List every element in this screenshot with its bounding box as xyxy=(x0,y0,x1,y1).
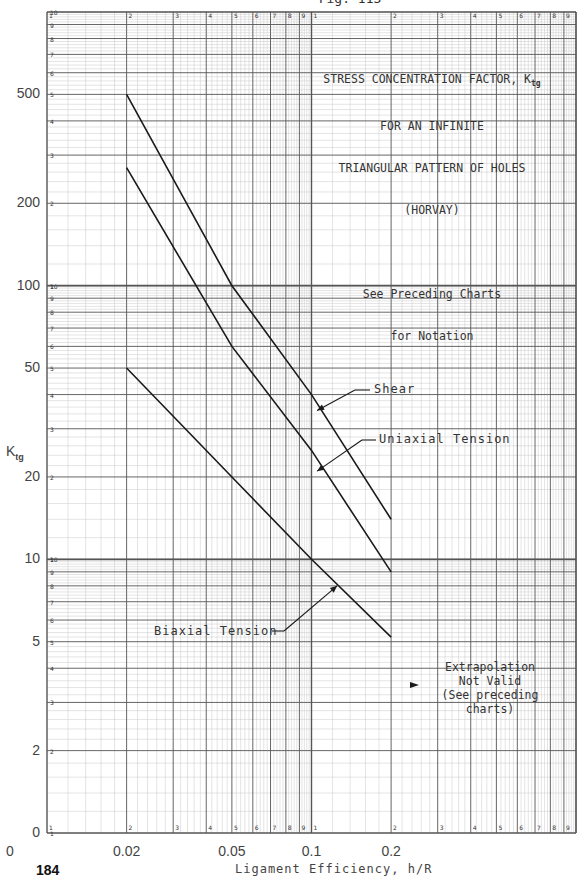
svg-text:3: 3 xyxy=(50,152,54,159)
y-axis-label: Ktg xyxy=(6,443,24,462)
svg-text:9: 9 xyxy=(301,12,305,19)
svg-text:3: 3 xyxy=(175,824,179,831)
svg-text:8: 8 xyxy=(50,36,54,43)
x-tick-label: 0.02 xyxy=(97,843,157,859)
svg-text:6: 6 xyxy=(50,70,54,77)
svg-text:8: 8 xyxy=(288,824,292,831)
svg-text:6: 6 xyxy=(519,12,523,19)
y-tick-label: 2 xyxy=(0,742,40,758)
svg-text:3: 3 xyxy=(50,426,54,433)
x-tick-label: 0.05 xyxy=(202,843,262,859)
svg-text:2: 2 xyxy=(50,474,54,481)
svg-text:4: 4 xyxy=(50,118,54,125)
label-shear: Shear xyxy=(374,382,415,396)
svg-text:1: 1 xyxy=(50,556,54,563)
svg-text:8: 8 xyxy=(552,12,556,19)
svg-text:2: 2 xyxy=(393,824,397,831)
svg-text:7: 7 xyxy=(537,824,541,831)
svg-text:9: 9 xyxy=(566,824,570,831)
svg-text:1: 1 xyxy=(314,12,318,19)
svg-text:9: 9 xyxy=(50,22,54,29)
y-tick-label: 5 xyxy=(0,633,40,649)
svg-text:8: 8 xyxy=(50,309,54,316)
svg-text:6: 6 xyxy=(255,824,259,831)
svg-text:5: 5 xyxy=(498,824,502,831)
x-tick-label: 0.2 xyxy=(361,843,421,859)
page-number: 184 xyxy=(36,862,59,878)
svg-text:5: 5 xyxy=(498,12,502,19)
y-tick-label: 50 xyxy=(0,359,40,375)
svg-text:6: 6 xyxy=(255,12,259,19)
svg-text:6: 6 xyxy=(50,343,54,350)
svg-text:3: 3 xyxy=(440,12,444,19)
svg-text:1: 1 xyxy=(314,824,318,831)
svg-text:2: 2 xyxy=(50,200,54,207)
svg-text:9: 9 xyxy=(566,12,570,19)
svg-text:9: 9 xyxy=(50,295,54,302)
x-axis-label: Ligament Efficiency, h/R xyxy=(235,862,432,876)
svg-text:5: 5 xyxy=(50,365,54,372)
y-tick-label: 0 xyxy=(0,824,40,840)
y-tick-label: 20 xyxy=(0,468,40,484)
svg-text:1: 1 xyxy=(49,824,53,831)
y-tick-label: 200 xyxy=(0,194,40,210)
series-biaxial-tension xyxy=(127,368,392,637)
y-tick-label: 10 xyxy=(0,550,40,566)
svg-text:5: 5 xyxy=(234,12,238,19)
svg-text:7: 7 xyxy=(273,824,277,831)
svg-text:7: 7 xyxy=(50,325,54,332)
svg-text:2: 2 xyxy=(129,824,133,831)
extrapolation-note: Extrapolation Not Valid (See preceding c… xyxy=(420,660,560,716)
svg-text:9: 9 xyxy=(301,824,305,831)
svg-text:4: 4 xyxy=(208,824,212,831)
svg-text:3: 3 xyxy=(50,699,54,706)
svg-text:8: 8 xyxy=(288,12,292,19)
svg-text:4: 4 xyxy=(50,392,54,399)
y-tick-label: 100 xyxy=(0,277,40,293)
label-uniaxial-tension: Uniaxial Tension xyxy=(379,432,511,446)
svg-text:2: 2 xyxy=(393,12,397,19)
svg-text:4: 4 xyxy=(208,12,212,19)
chart-title: STRESS CONCENTRATION FACTOR, Ktg FOR AN … xyxy=(282,44,582,357)
svg-text:3: 3 xyxy=(175,12,179,19)
svg-text:6: 6 xyxy=(519,824,523,831)
label-biaxial-tension: Biaxial Tension xyxy=(154,624,277,638)
svg-text:9: 9 xyxy=(50,569,54,576)
svg-text:4: 4 xyxy=(473,824,477,831)
svg-text:5: 5 xyxy=(50,639,54,646)
svg-text:2: 2 xyxy=(50,748,54,755)
x-tick-label: 0 xyxy=(0,843,40,859)
svg-text:2: 2 xyxy=(129,12,133,19)
svg-text:1: 1 xyxy=(50,283,54,290)
y-tick-label: 500 xyxy=(0,85,40,101)
svg-text:8: 8 xyxy=(50,583,54,590)
svg-text:7: 7 xyxy=(273,12,277,19)
svg-text:1: 1 xyxy=(50,830,54,837)
svg-text:6: 6 xyxy=(50,617,54,624)
svg-text:5: 5 xyxy=(50,91,54,98)
x-tick-label: 0.1 xyxy=(282,843,342,859)
svg-text:8: 8 xyxy=(552,824,556,831)
svg-text:5: 5 xyxy=(234,824,238,831)
svg-text:4: 4 xyxy=(50,665,54,672)
svg-text:7: 7 xyxy=(50,599,54,606)
svg-text:1: 1 xyxy=(49,12,53,19)
svg-text:3: 3 xyxy=(440,824,444,831)
svg-text:4: 4 xyxy=(473,12,477,19)
svg-text:7: 7 xyxy=(537,12,541,19)
svg-text:7: 7 xyxy=(50,51,54,58)
